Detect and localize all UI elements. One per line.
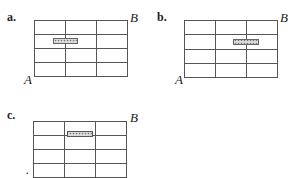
grids-svg: [0, 0, 294, 178]
shaded-block-a: [54, 39, 78, 44]
grid-b: [185, 21, 278, 78]
shaded-block-c: [68, 132, 93, 137]
shaded-block-b: [234, 40, 259, 45]
grid-a: [35, 21, 128, 77]
grid-c: [34, 122, 127, 178]
